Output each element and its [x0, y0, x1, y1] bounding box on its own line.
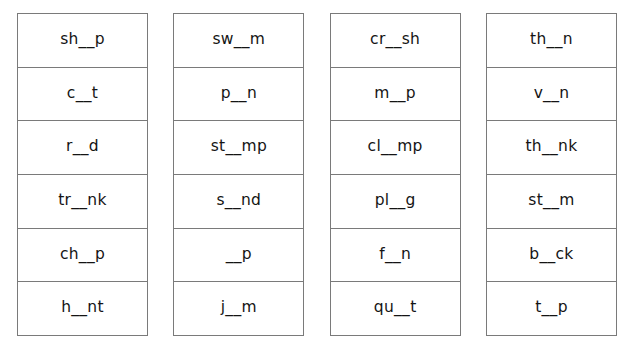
- word-cell[interactable]: qu__t: [331, 282, 460, 335]
- word-text: h__nt: [61, 300, 104, 317]
- word-text: th__n: [530, 32, 573, 49]
- word-text: sw__m: [212, 32, 265, 49]
- word-column-3: cr__sh m__p cl__mp pl__g f__n qu__t: [330, 13, 461, 336]
- word-cell[interactable]: cl__mp: [331, 121, 460, 175]
- word-text: ch__p: [60, 247, 105, 264]
- word-column-4: th__n v__n th__nk st__m b__ck t__p: [486, 13, 617, 336]
- word-cell[interactable]: ch__p: [18, 229, 147, 283]
- word-cell[interactable]: b__ck: [487, 229, 616, 283]
- word-cell[interactable]: c__t: [18, 68, 147, 122]
- word-cell[interactable]: j__m: [174, 282, 303, 335]
- word-cell[interactable]: st__m: [487, 175, 616, 229]
- word-cell[interactable]: m__p: [331, 68, 460, 122]
- word-text: f__n: [379, 247, 411, 264]
- word-cell[interactable]: f__n: [331, 229, 460, 283]
- word-text: p__n: [221, 86, 257, 103]
- word-text: s__nd: [216, 193, 261, 210]
- word-text: r__d: [66, 139, 99, 156]
- word-text: st__m: [528, 193, 574, 210]
- word-text: st__mp: [211, 139, 267, 156]
- word-text: c__t: [67, 86, 98, 103]
- word-cell[interactable]: tr__nk: [18, 175, 147, 229]
- word-cell[interactable]: th__nk: [487, 121, 616, 175]
- word-cell[interactable]: __p: [174, 229, 303, 283]
- worksheet-page: sh__p c__t r__d tr__nk ch__p h__nt sw__m…: [0, 0, 636, 357]
- word-text: tr__nk: [58, 193, 107, 210]
- word-cell[interactable]: v__n: [487, 68, 616, 122]
- word-text: cr__sh: [370, 32, 420, 49]
- word-cell[interactable]: s__nd: [174, 175, 303, 229]
- word-text: m__p: [374, 86, 416, 103]
- word-text: pl__g: [375, 193, 416, 210]
- word-text: v__n: [534, 86, 570, 103]
- word-column-1: sh__p c__t r__d tr__nk ch__p h__nt: [17, 13, 148, 336]
- word-text: cl__mp: [368, 139, 423, 156]
- word-cell[interactable]: th__n: [487, 14, 616, 68]
- word-cell[interactable]: pl__g: [331, 175, 460, 229]
- word-cell[interactable]: st__mp: [174, 121, 303, 175]
- word-cell[interactable]: r__d: [18, 121, 147, 175]
- word-cell[interactable]: h__nt: [18, 282, 147, 335]
- word-text: th__nk: [525, 139, 577, 156]
- word-cell[interactable]: p__n: [174, 68, 303, 122]
- word-text: b__ck: [529, 247, 573, 264]
- word-cell[interactable]: sh__p: [18, 14, 147, 68]
- word-cell[interactable]: sw__m: [174, 14, 303, 68]
- word-cell[interactable]: cr__sh: [331, 14, 460, 68]
- word-text: qu__t: [374, 300, 417, 317]
- word-cell[interactable]: t__p: [487, 282, 616, 335]
- word-columns-container: sh__p c__t r__d tr__nk ch__p h__nt sw__m…: [17, 13, 617, 336]
- word-text: __p: [226, 247, 252, 264]
- word-text: t__p: [535, 300, 568, 317]
- word-text: sh__p: [60, 32, 105, 49]
- word-text: j__m: [221, 300, 257, 317]
- word-column-2: sw__m p__n st__mp s__nd __p j__m: [173, 13, 304, 336]
